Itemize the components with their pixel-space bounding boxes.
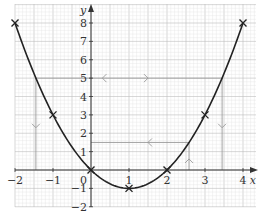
y-tick-label: 5 <box>80 72 87 85</box>
x-tick-label: 4 <box>240 174 247 187</box>
y-tick-label: 4 <box>80 91 87 104</box>
y-tick-label: 8 <box>80 17 87 30</box>
y-tick-label: 6 <box>80 54 87 67</box>
y-axis-arrow-icon <box>88 4 94 12</box>
y-tick-label: 7 <box>80 35 87 48</box>
y-tick-label: −2 <box>71 201 87 213</box>
origin-label: 0 <box>80 174 87 187</box>
x-tick-label: 2 <box>164 174 171 187</box>
y-tick-label: 3 <box>80 109 87 122</box>
parabola-chart: xy −2−11234−2−1123456780 <box>0 0 260 213</box>
x-axis-label: x <box>250 174 257 187</box>
y-tick-label: 1 <box>80 146 87 159</box>
y-axis-label: y <box>79 4 87 17</box>
x-axis-arrow-icon <box>250 167 258 173</box>
y-tick-label: 2 <box>80 127 87 140</box>
x-tick-label: −1 <box>45 174 61 187</box>
x-tick-label: −2 <box>7 174 23 187</box>
x-tick-label: 3 <box>202 174 209 187</box>
